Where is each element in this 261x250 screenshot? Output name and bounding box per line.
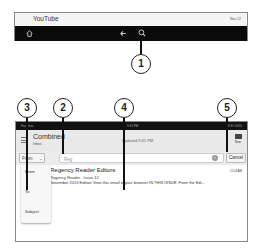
callout-1: 1 bbox=[131, 54, 151, 74]
email-app-screen: Favorites 9:41 PM Wi-Fi 100% Combined In… bbox=[15, 121, 248, 242]
home-icon[interactable] bbox=[26, 30, 33, 38]
navigation-bar bbox=[15, 26, 247, 41]
compose-button[interactable]: New bbox=[233, 134, 243, 148]
app-title: YouTube bbox=[33, 15, 59, 22]
callout-1-leader bbox=[140, 41, 142, 55]
email-time: 12:01AM bbox=[230, 169, 242, 173]
email-preview: November 2013 Edition View this email in… bbox=[50, 180, 205, 185]
clear-search-icon[interactable]: × bbox=[212, 155, 218, 161]
kindle-top-screen: YouTube Nov 12 bbox=[14, 12, 248, 41]
callout-2-leader bbox=[62, 118, 64, 154]
option-subject[interactable]: Subject bbox=[25, 209, 39, 214]
envelope-icon bbox=[235, 134, 242, 139]
updated-status: Updated 9:41 PM bbox=[122, 138, 153, 143]
callout-5-leader bbox=[226, 118, 228, 152]
notification-strip: YouTube Nov 12 bbox=[15, 13, 247, 26]
callout-3: 3 bbox=[17, 98, 37, 118]
status-right: Wi-Fi 100% bbox=[226, 124, 242, 128]
status-bar: Favorites 9:41 PM Wi-Fi 100% bbox=[16, 122, 247, 130]
compose-label: New bbox=[233, 140, 243, 144]
mailbox-title: Combined bbox=[33, 133, 65, 140]
callout-3-leader bbox=[26, 118, 28, 190]
date-label: Nov 12 bbox=[230, 17, 241, 21]
status-time: 9:41 PM bbox=[127, 124, 138, 128]
search-bar: From ⌄ × Cancel bbox=[16, 151, 247, 166]
search-field-select[interactable]: From ⌄ bbox=[19, 153, 45, 163]
mailbox-subtitle: Inbox bbox=[33, 142, 42, 146]
cancel-button[interactable]: Cancel bbox=[226, 153, 246, 163]
callout-5: 5 bbox=[217, 98, 237, 118]
callout-2: 2 bbox=[53, 98, 73, 118]
back-arrow-icon[interactable] bbox=[119, 30, 127, 38]
search-input[interactable] bbox=[59, 153, 224, 163]
search-icon[interactable] bbox=[138, 29, 146, 38]
email-sender: Regency Reader Editors bbox=[50, 167, 115, 173]
chevron-down-icon: ⌄ bbox=[39, 156, 42, 161]
callout-4: 4 bbox=[114, 98, 134, 118]
inbox-header: Combined Inbox Updated 9:41 PM New bbox=[16, 130, 247, 152]
callout-4-leader bbox=[123, 118, 125, 190]
